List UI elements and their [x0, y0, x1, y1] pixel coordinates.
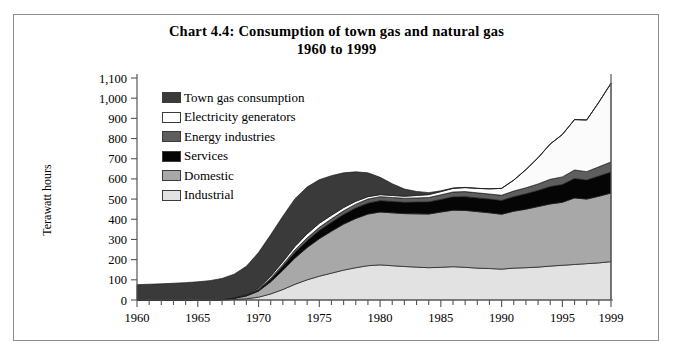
y-tick-label: 700: [108, 152, 127, 166]
legend-swatch-icon: [162, 151, 181, 162]
legend-swatch-icon: [162, 190, 181, 201]
legend-item-label: Industrial: [184, 187, 234, 203]
legend-item-label: Domestic: [184, 168, 234, 184]
legend-item: Domestic: [162, 166, 337, 186]
chart-page: Chart 4.4: Consumption of town gas and n…: [0, 0, 673, 361]
x-tick-label: 1980: [368, 311, 393, 325]
legend-item: Energy industries: [162, 127, 337, 147]
legend-item: Town gas consumption: [162, 88, 337, 108]
legend-item: Industrial: [162, 186, 337, 206]
y-tick-label: 0: [121, 294, 127, 308]
legend-swatch-icon: [162, 92, 181, 103]
y-tick-label: 500: [108, 193, 127, 207]
y-tick-label: 100: [108, 273, 127, 287]
x-tick-label: 1985: [428, 311, 453, 325]
x-tick-label: 1995: [550, 311, 575, 325]
legend-item-label: Town gas consumption: [184, 90, 304, 106]
y-tick-label: 800: [108, 132, 127, 146]
x-tick-label: 1965: [185, 311, 210, 325]
x-tick-label: 1960: [125, 311, 150, 325]
x-tick-label: 1975: [307, 311, 332, 325]
x-tick-label: 1970: [246, 311, 271, 325]
legend-swatch-icon: [162, 112, 181, 123]
y-tick-label: 900: [108, 112, 127, 126]
legend-swatch-icon: [162, 131, 181, 142]
legend-item-label: Energy industries: [184, 129, 275, 145]
chart-legend: Town gas consumptionElectricity generato…: [162, 88, 337, 205]
legend-item-label: Electricity generators: [184, 109, 296, 125]
legend-item: Electricity generators: [162, 108, 337, 128]
y-tick-label: 1,100: [99, 72, 127, 86]
legend-item: Services: [162, 147, 337, 167]
x-tick-label: 1999: [599, 311, 624, 325]
y-tick-label: 200: [108, 253, 127, 267]
y-tick-label: 300: [108, 233, 127, 247]
x-tick-label: 1990: [489, 311, 514, 325]
y-tick-label: 400: [108, 213, 127, 227]
legend-item-label: Services: [184, 148, 228, 164]
y-tick-label: 600: [108, 172, 127, 186]
legend-swatch-icon: [162, 170, 181, 181]
y-tick-label: 1,000: [99, 92, 127, 106]
